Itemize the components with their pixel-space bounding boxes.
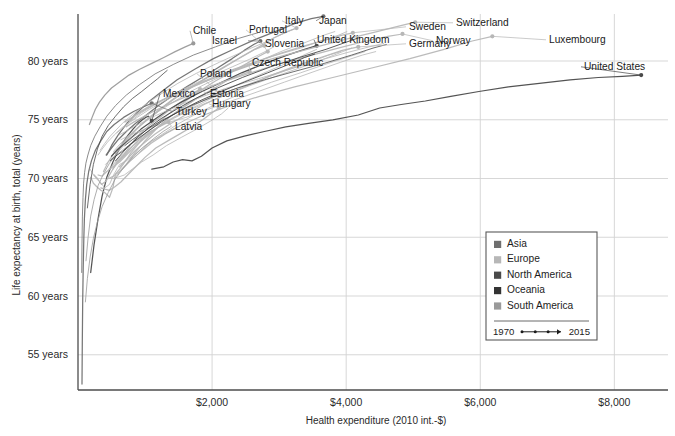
series-label: Switzerland	[456, 17, 509, 28]
series-label: Mexico	[163, 88, 196, 99]
legend-label[interactable]: Asia	[507, 238, 527, 249]
legend-label[interactable]: Oceania	[507, 284, 545, 295]
chart-background	[0, 0, 675, 436]
life-expectancy-vs-health-expenditure-chart: 55 years60 years65 years70 years75 years…	[0, 0, 675, 436]
series-label: Norway	[436, 35, 471, 46]
x-axis-title: Health expenditure (2010 int.-$)	[306, 415, 447, 426]
legend-swatch	[494, 287, 501, 294]
y-tick-label: 70 years	[28, 172, 68, 184]
x-tick-label: $8,000	[598, 396, 630, 408]
legend-arrow-dot	[547, 330, 550, 333]
series-label: Turkey	[176, 106, 208, 117]
chart-canvas: 55 years60 years65 years70 years75 years…	[0, 0, 675, 436]
series-label: Latvia	[175, 121, 203, 132]
legend-arrow-dot	[534, 330, 537, 333]
legend-swatch	[494, 241, 501, 248]
y-tick-label: 75 years	[28, 113, 68, 125]
chart-legend[interactable]: AsiaEuropeNorth AmericaOceaniaSouth Amer…	[486, 232, 597, 340]
series-label: Luxembourg	[549, 34, 606, 45]
y-axis-title: Life expectancy at birth, total (years)	[11, 134, 22, 295]
series-label: Czech Republic	[252, 57, 323, 68]
x-tick-label: $6,000	[464, 396, 496, 408]
legend-range-start: 1970	[493, 326, 514, 337]
series-label: Italy	[285, 15, 305, 26]
series-label: Sweden	[409, 21, 446, 32]
y-tick-label: 55 years	[28, 348, 68, 360]
series-label: Japan	[319, 15, 347, 26]
legend-label[interactable]: Europe	[507, 253, 540, 264]
series-label: Israel	[212, 35, 237, 46]
series-label: Hungary	[212, 98, 251, 109]
y-tick-label: 65 years	[28, 231, 68, 243]
series-label: United States	[584, 61, 645, 72]
legend-swatch	[494, 256, 501, 263]
series-label: United Kingdom	[317, 34, 390, 45]
legend-label[interactable]: North America	[507, 269, 572, 280]
series-label: Portugal	[249, 24, 287, 35]
y-tick-label: 80 years	[28, 55, 68, 67]
series-label: Poland	[200, 68, 232, 79]
y-tick-label: 60 years	[28, 290, 68, 302]
x-tick-label: $4,000	[330, 396, 362, 408]
series-label: Slovenia	[265, 38, 304, 49]
legend-label[interactable]: South America	[507, 300, 574, 311]
x-tick-label: $2,000	[196, 396, 228, 408]
legend-swatch	[494, 272, 501, 279]
series-label: Chile	[193, 25, 217, 36]
legend-range-end: 2015	[569, 326, 590, 337]
legend-swatch	[494, 302, 501, 309]
legend-arrow-dot	[521, 330, 524, 333]
